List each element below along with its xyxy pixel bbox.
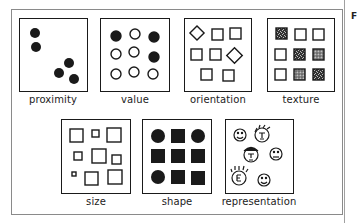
adjacent-column: F — [344, 0, 355, 223]
shape-glyphs-icon — [143, 120, 213, 195]
panel-representation — [225, 119, 294, 194]
label-value: value — [90, 94, 180, 105]
label-orientation: orientation — [173, 94, 263, 105]
panel-size — [61, 119, 131, 194]
value-circles-icon — [101, 19, 171, 93]
label-shape: shape — [132, 196, 222, 207]
panel-texture — [267, 18, 335, 92]
texture-squares-icon — [268, 19, 336, 93]
label-size: size — [51, 196, 141, 207]
label-proximity: proximity — [8, 94, 98, 105]
side-text: F — [351, 11, 357, 21]
representation-faces-icon — [226, 120, 295, 195]
panel-proximity — [19, 18, 88, 92]
panel-orientation — [184, 18, 252, 92]
label-texture: texture — [256, 94, 346, 105]
size-squares-icon — [62, 120, 132, 195]
panel-value — [100, 18, 170, 92]
proximity-dots-icon — [20, 19, 89, 93]
panel-shape — [142, 119, 212, 194]
label-representation: representation — [214, 196, 304, 207]
orientation-squares-icon — [185, 19, 253, 93]
